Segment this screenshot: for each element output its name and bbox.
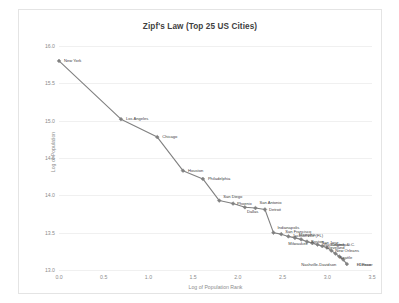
data-point-marker <box>263 208 267 212</box>
y-axis-tick-label: 13.0 <box>45 267 55 273</box>
x-axis-tick-label: 3.5 <box>368 274 375 280</box>
data-series-line <box>59 46 372 270</box>
data-point-label: Memphis <box>299 233 316 237</box>
data-point-label: Milwaukee <box>288 242 307 246</box>
x-axis-title: Log of Population Rank <box>59 284 372 290</box>
data-point-label: San Diego <box>223 195 242 199</box>
y-axis-tick-label: 14.5 <box>45 155 55 161</box>
x-axis-tick-label: 1.0 <box>145 274 152 280</box>
x-axis-tick-label: 0.5 <box>100 274 107 280</box>
data-point-label: Nashville-Davidson <box>301 262 336 266</box>
data-point-label: San Antonio <box>259 201 281 205</box>
data-point-label: Columbus <box>331 243 349 247</box>
data-point-marker <box>272 231 276 235</box>
data-point-label: Seattle <box>339 256 352 260</box>
y-axis-tick-label: 14.0 <box>45 192 55 198</box>
x-axis-tick-label: 2.0 <box>234 274 241 280</box>
plot-area: 13.013.514.014.515.015.516.0 0.00.51.01.… <box>59 46 372 270</box>
data-point-label: Philadelphia <box>208 177 230 181</box>
x-axis-tick-label: 1.5 <box>190 274 197 280</box>
x-axis-tick-label: 0.0 <box>55 274 62 280</box>
data-point-marker <box>279 232 283 236</box>
y-axis-tick-label: 13.5 <box>45 230 55 236</box>
y-axis-tick-label: 16.0 <box>45 43 55 49</box>
data-point-label: Detroit <box>269 207 281 211</box>
x-axis-tick-label: 2.5 <box>279 274 286 280</box>
data-point-marker <box>231 202 235 206</box>
data-point-label: Los Angeles <box>126 117 148 121</box>
y-axis-tick-label: 15.5 <box>45 80 55 86</box>
data-point-label: Chicago <box>162 135 177 139</box>
data-point-label: New York <box>64 59 81 63</box>
data-point-label: El Paso <box>357 263 371 267</box>
x-axis-tick-label: 3.0 <box>324 274 331 280</box>
chart-title: Zipf's Law (Top 25 US Cities) <box>19 22 381 31</box>
data-point-label: Houston <box>188 169 203 173</box>
data-point-marker <box>286 235 290 239</box>
gridline-horizontal <box>59 270 372 271</box>
y-axis-tick-label: 15.0 <box>45 118 55 124</box>
y-axis-title: Log of Population <box>50 131 56 171</box>
chart-frame: Zipf's Law (Top 25 US Cities) Log of Pop… <box>18 9 382 294</box>
data-point-label: Phoenix <box>237 201 252 205</box>
data-point-label: Dallas <box>247 210 258 214</box>
data-point-label: New Orleans <box>335 249 359 253</box>
